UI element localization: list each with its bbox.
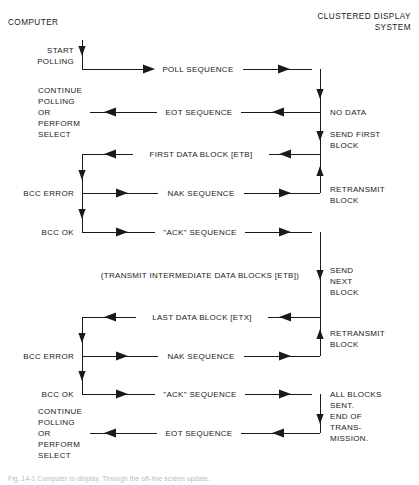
continue-2-line-4: PERFORM <box>38 440 80 449</box>
continue-1-line-4: PERFORM <box>38 119 80 128</box>
end-of-transmission-line-4: TRANS- <box>330 423 362 432</box>
send-first-block-line-1: SEND FIRST <box>330 130 381 139</box>
state-label-bcc-error-2: BCC ERROR <box>23 352 74 361</box>
continue-2-line-3: OR <box>38 429 51 438</box>
state-label-bcc-ok-1: BCC OK <box>42 228 75 237</box>
retransmit-2-line-2: BLOCK <box>330 340 359 349</box>
message-label-poll-sequence: POLL SEQUENCE <box>162 65 233 74</box>
send-first-block-line-2: BLOCK <box>330 141 359 150</box>
continue-1-line-2: POLLING <box>38 97 75 106</box>
figure-caption: Fig. 14-1 Computer to display. Through t… <box>8 475 210 483</box>
end-of-transmission-line-3: END OF <box>330 412 362 421</box>
message-label-eot-sequence-2: EOT SEQUENCE <box>165 429 232 438</box>
column-header-computer: COMPUTER <box>8 18 58 27</box>
start-polling-line-2: POLLING <box>37 57 74 66</box>
state-label-no-data: NO DATA <box>330 108 367 117</box>
message-label-first-data-block: FIRST DATA BLOCK [ETB] <box>149 150 252 159</box>
protocol-sequence-diagram: COMPUTER CLUSTERED DISPLAY SYSTEM <box>0 0 419 485</box>
message-label-nak-sequence-1: NAK SEQUENCE <box>167 189 234 198</box>
end-of-transmission-line-1: ALL BLOCKS <box>330 390 382 399</box>
retransmit-1-line-2: BLOCK <box>330 196 359 205</box>
end-of-transmission-line-2: SENT. <box>330 401 354 410</box>
continue-1-line-5: SELECT <box>38 130 71 139</box>
diagram-canvas: COMPUTER CLUSTERED DISPLAY SYSTEM <box>0 0 419 485</box>
end-of-transmission-line-5: MISSION. <box>330 434 368 443</box>
state-label-bcc-ok-2: BCC OK <box>42 390 75 399</box>
state-label-bcc-error-1: BCC ERROR <box>23 189 74 198</box>
retransmit-1-line-1: RETRANSMIT <box>330 185 385 194</box>
message-label-nak-sequence-2: NAK SEQUENCE <box>167 352 234 361</box>
continue-1-line-3: OR <box>38 108 51 117</box>
continue-2-line-1: CONTINUE <box>38 407 82 416</box>
intermediate-blocks-note: (TRANSMIT INTERMEDIATE DATA BLOCKS [ETB]… <box>101 271 299 280</box>
send-next-block-line-2: NEXT <box>330 277 353 286</box>
message-label-ack-sequence-2: "ACK" SEQUENCE <box>163 390 236 399</box>
send-next-block-line-3: BLOCK <box>330 288 359 297</box>
send-next-block-line-1: SEND <box>330 266 353 275</box>
message-label-ack-sequence-1: "ACK" SEQUENCE <box>163 228 236 237</box>
start-polling-line-1: START <box>47 46 74 55</box>
retransmit-2-line-1: RETRANSMIT <box>330 329 385 338</box>
column-header-display-line2: SYSTEM <box>375 23 411 32</box>
continue-2-line-5: SELECT <box>38 451 71 460</box>
continue-1-line-1: CONTINUE <box>38 86 82 95</box>
continue-2-line-2: POLLING <box>38 418 75 427</box>
column-header-display-line1: CLUSTERED DISPLAY <box>318 12 412 21</box>
message-label-last-data-block: LAST DATA BLOCK [ETX] <box>152 313 252 322</box>
message-label-eot-sequence-1: EOT SEQUENCE <box>165 108 232 117</box>
